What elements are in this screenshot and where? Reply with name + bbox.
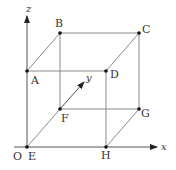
label-g: G	[141, 107, 150, 120]
label-c: C	[142, 23, 150, 36]
point-c	[137, 31, 141, 35]
y-axis-arrow	[60, 82, 84, 109]
point-f	[58, 107, 62, 111]
y-axis-label: y	[85, 72, 92, 83]
label-a: A	[30, 74, 40, 87]
point-e	[25, 145, 29, 149]
label-h: H	[101, 149, 111, 162]
label-b: B	[55, 17, 63, 30]
label-f: F	[61, 112, 69, 125]
edge-a-b	[27, 33, 60, 71]
label-d: D	[110, 68, 119, 81]
edge-e-f	[27, 109, 60, 147]
x-axis-label: x	[161, 141, 167, 152]
point-b	[58, 31, 62, 35]
label-e: E	[28, 150, 36, 163]
edge-c-d	[106, 33, 139, 71]
point-d	[104, 69, 108, 73]
cube-edges	[27, 33, 139, 147]
edge-g-h	[106, 109, 139, 147]
z-axis-label: z	[25, 3, 32, 14]
cube-diagram: z x y B C A D F G H O E	[0, 0, 176, 170]
point-a	[25, 69, 29, 73]
label-origin: O	[13, 150, 22, 163]
vertex-points	[25, 31, 141, 149]
